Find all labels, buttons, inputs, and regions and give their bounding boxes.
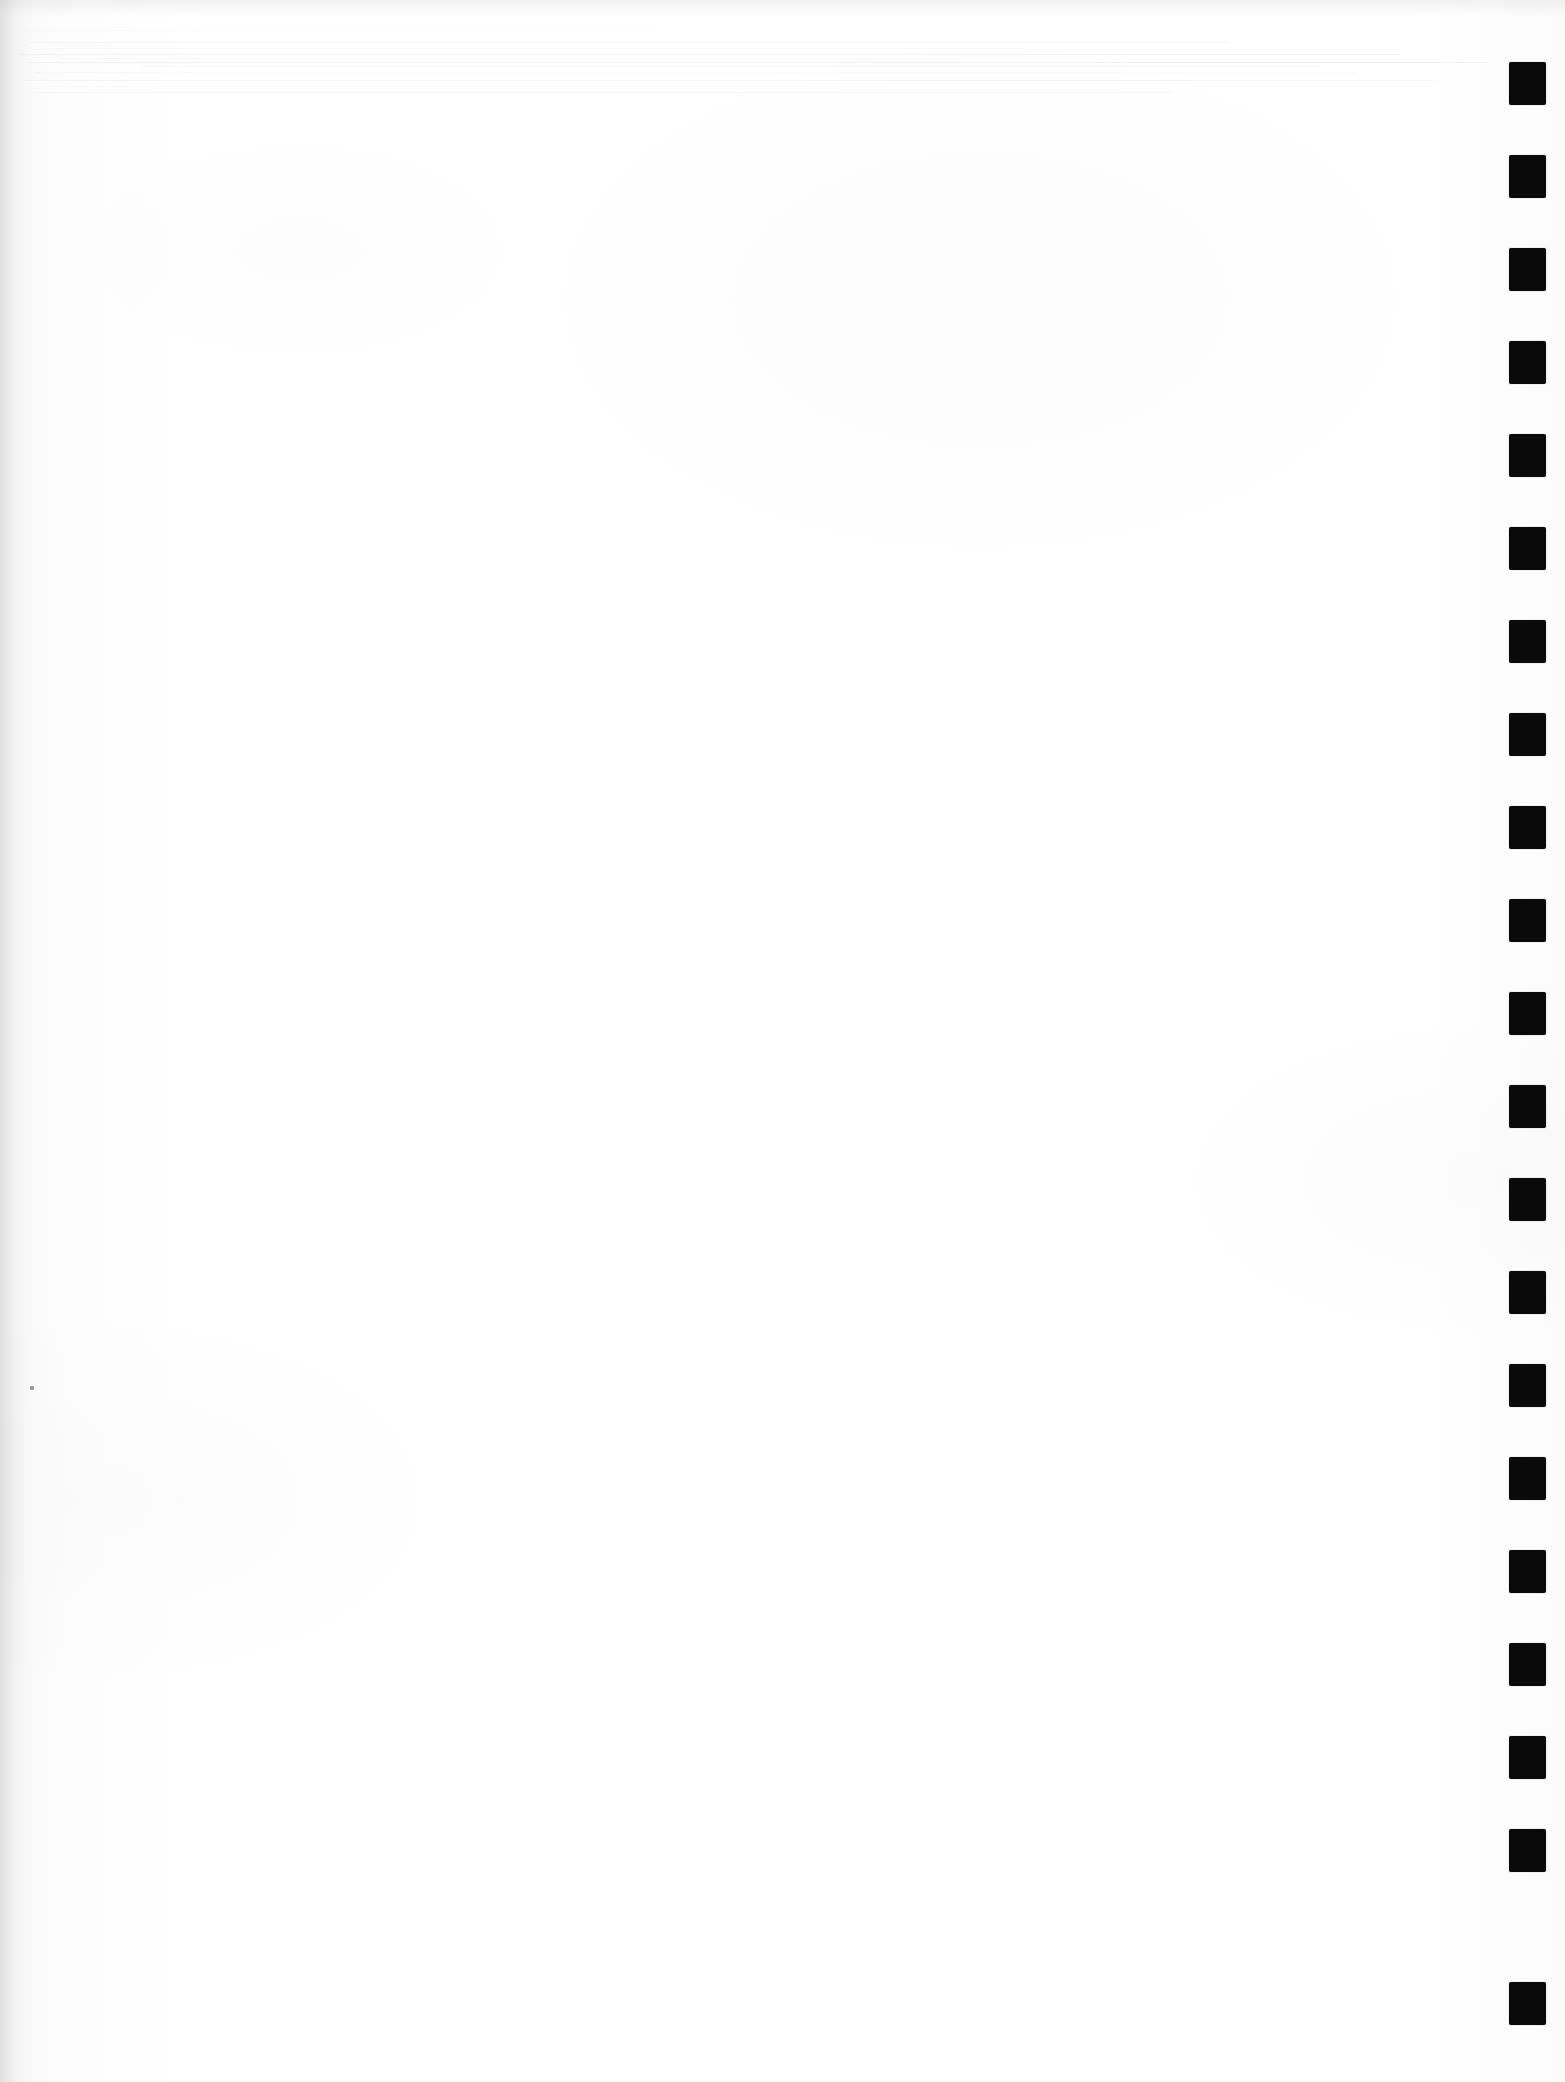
left-margin-speck (30, 1386, 34, 1390)
scanned-page (0, 0, 1565, 2082)
page-body-text (120, 160, 1400, 1920)
